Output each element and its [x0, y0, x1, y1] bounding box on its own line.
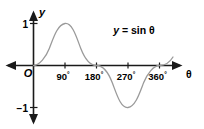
y-axis-arrow-up-icon — [29, 11, 38, 22]
origin-label: O — [24, 67, 33, 79]
x-tick-label-180: 180° — [85, 71, 104, 82]
y-axis-label: y — [38, 6, 46, 18]
x-axis-arrow-right-icon — [172, 61, 183, 70]
sine-graph-figure: 90° 180° 270° 360° 1 −1 y θ O y = sin θ — [0, 0, 204, 129]
equation-label: y = sin θ — [112, 24, 155, 36]
y-tick-label-minus-1: −1 — [17, 103, 29, 114]
x-tick-label-90: 90° — [56, 71, 70, 82]
y-axis-arrow-down-icon — [29, 114, 38, 125]
x-axis-label: θ — [186, 68, 192, 80]
x-tick-label-360: 360° — [148, 71, 167, 82]
y-tick-label-1: 1 — [22, 19, 28, 30]
x-tick-label-270: 270° — [117, 71, 136, 82]
x-axis-arrow-left-icon — [6, 61, 17, 70]
equation-expression: sin θ — [131, 24, 155, 36]
